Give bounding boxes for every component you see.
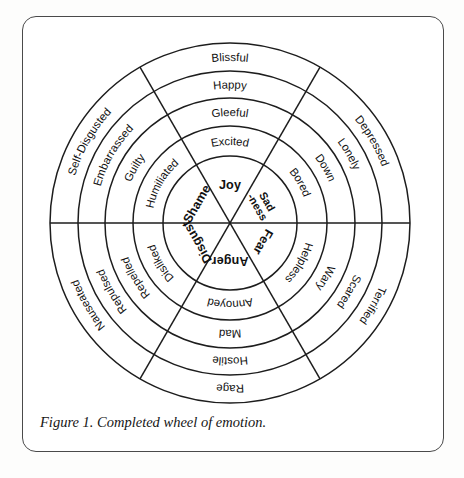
ring-label: Gleeful [211,106,250,120]
ring-label: Scared [335,273,364,311]
ring-label: Annoyed [206,296,254,311]
core-label-text: Sad-ness [245,186,280,223]
core-label-disgust: Disgust [179,218,215,266]
wheel-geometry [50,43,410,403]
figure-root: JoyExcitedGleefulHappyBlissfulSad-nessBo… [0,0,464,478]
core-label-text: Anger [212,254,249,268]
ring-label: Hostile [212,354,249,367]
emotion-wheel: JoyExcitedGleefulHappyBlissfulSad-nessBo… [22,16,444,452]
ring-label: Happy [213,78,248,91]
emotion-wheel-svg: JoyExcitedGleefulHappyBlissfulSad-nessBo… [22,16,444,452]
core-label-joy: Joy [219,178,241,192]
ring-label: Mad [218,327,241,340]
core-label-text: Fear [250,227,276,257]
ring-label: Humiliated [143,156,180,209]
ring-label: Helpless [283,241,316,286]
ring-label: Wary [314,264,338,293]
core-label-anger: Anger [212,254,249,268]
core-label-text: Shame [181,182,214,225]
core-label-text: Joy [219,178,241,192]
ring-label: Excited [210,135,250,149]
ring-label: Bored [287,166,313,199]
ring-label: Repulsed [94,268,129,316]
core-label-fear: Fear [250,227,276,257]
ring-label: Repelled [119,255,152,301]
ring-label: Rage [216,382,245,395]
figure-caption: Figure 1. Completed wheel of emotion. [40,414,266,431]
core-label-text: Disgust [179,218,215,266]
core-label-sadness: Sad-ness [245,186,280,223]
ring-label: Blissful [211,51,249,64]
core-label-shame: Shame [181,182,214,225]
ring-label: Terrified [357,285,388,327]
